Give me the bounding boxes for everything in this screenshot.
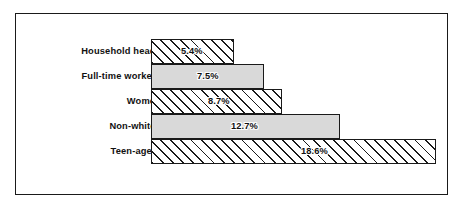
bar-value-label: 18.6% [301,139,328,164]
bar-category-label: Household heads [81,39,161,64]
bar-row: Women8.7% [16,89,449,114]
bar-row: Teen-agers18.6% [16,139,449,164]
bar-chart-plot-area: Household heads5.4%Full-time workers7.5%… [16,14,449,196]
bar-value-label: 7.5% [197,64,219,89]
bar-rect [151,139,436,164]
bar-row: Full-time workers7.5% [16,64,449,89]
bar-value-label: 8.7% [208,89,230,114]
bar-value-label: 5.4% [181,39,203,64]
chart-frame: Household heads5.4%Full-time workers7.5%… [15,13,448,195]
bar-category-label: Full-time workers [81,64,161,89]
bar-row: Non-whites12.7% [16,114,449,139]
bar-value-label: 12.7% [231,114,258,139]
bar-row: Household heads5.4% [16,39,449,64]
